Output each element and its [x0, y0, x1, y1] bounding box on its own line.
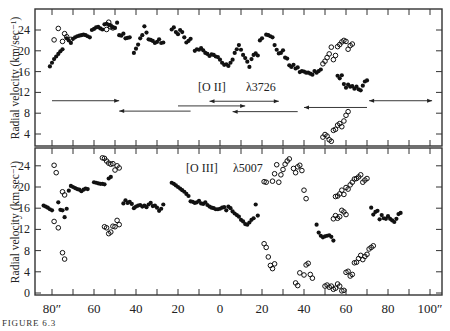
- top-slit-arrows: [52, 99, 432, 114]
- svg-text:4: 4: [24, 265, 30, 279]
- oii-wavelength-label: λ3726: [246, 80, 276, 94]
- svg-text:80″: 80″: [43, 301, 61, 316]
- chart-svg: 4812162024 [O II] λ3726 Radial velocity …: [0, 0, 450, 331]
- bottom-y-axis: 04812162024: [18, 159, 442, 300]
- svg-text:60: 60: [88, 301, 101, 316]
- svg-text:20: 20: [172, 301, 185, 316]
- svg-text:0: 0: [24, 286, 30, 300]
- svg-text:8: 8: [24, 106, 30, 120]
- svg-text:40: 40: [130, 301, 143, 316]
- top-panel-oii: 4812162024 [O II] λ3726 Radial velocity …: [9, 9, 442, 146]
- svg-text:0: 0: [217, 301, 224, 316]
- svg-text:60: 60: [340, 301, 353, 316]
- plot-frame: [35, 9, 442, 295]
- bottom-y-axis-label: Radial velocity (km sec⁻¹): [9, 161, 22, 283]
- svg-text:20: 20: [256, 301, 269, 316]
- oii-line-label: [O II]: [198, 80, 226, 94]
- bottom-panel-oiii: 04812162024 80″604020020406080100″ [O II…: [9, 148, 442, 316]
- svg-text:8: 8: [24, 244, 30, 258]
- oiii-line-label: [O III]: [186, 161, 218, 175]
- oiii-wavelength-label: λ5007: [233, 161, 263, 175]
- svg-text:100″: 100″: [418, 301, 443, 316]
- figure-caption: FIGURE 6.3: [2, 318, 56, 328]
- top-y-axis-label: Radial velocity (km/sec⁻¹): [9, 17, 22, 140]
- top-y-axis: 4812162024: [18, 23, 442, 141]
- svg-text:80: 80: [382, 301, 395, 316]
- bottom-data-points: [42, 156, 403, 294]
- svg-text:40: 40: [298, 301, 311, 316]
- svg-text:4: 4: [24, 127, 30, 141]
- figure: 4812162024 [O II] λ3726 Radial velocity …: [0, 0, 450, 331]
